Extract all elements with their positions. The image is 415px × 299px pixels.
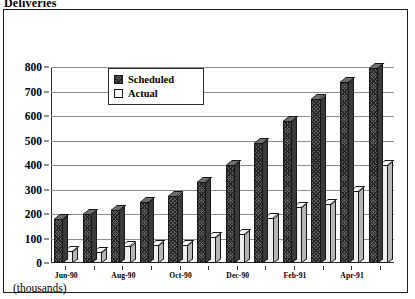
bar-front-face — [283, 121, 292, 263]
bar-front-face — [168, 196, 177, 263]
bar-scheduled-jul-90 — [83, 214, 92, 263]
chart-screenshot: Deliveries 0100200300400500600700800 Jun… — [0, 0, 415, 299]
bar-scheduled-mar-91 — [311, 99, 320, 263]
x-axis-tick — [237, 266, 238, 270]
legend-item-actual: Actual — [114, 86, 198, 100]
bar-side-face — [263, 139, 268, 263]
chart-frame: 0100200300400500600700800 Jun-90Aug-90Oc… — [3, 9, 408, 293]
bar-front-face — [226, 165, 235, 263]
x-axis-tick — [65, 266, 66, 270]
bar-front-face — [111, 210, 120, 263]
y-axis-tick — [44, 116, 49, 117]
bar-side-face — [274, 214, 279, 263]
legend: Scheduled Actual — [108, 68, 204, 105]
bar-front-face — [369, 68, 378, 263]
bar-side-face — [321, 95, 326, 263]
x-axis-tick — [94, 266, 95, 270]
y-axis-tick-label: 100 — [25, 233, 42, 245]
x-axis-tick-label: Apr-91 — [340, 271, 364, 280]
bar-side-face — [149, 198, 154, 263]
bar-side-face — [359, 187, 364, 263]
y-axis: 0100200300400500600700800 — [4, 60, 49, 270]
bar-side-face — [131, 242, 136, 263]
x-axis-tick — [151, 266, 152, 270]
x-axis-tick-label: Dec-90 — [226, 271, 249, 280]
x-axis-tick-label: Jun-90 — [55, 271, 78, 280]
y-axis-tick — [44, 263, 49, 264]
bar-front-face — [254, 143, 263, 263]
bar-scheduled-dec-90 — [226, 165, 235, 263]
bar-scheduled-sep-90 — [140, 202, 149, 263]
bar-front-face — [140, 202, 149, 263]
y-axis-tick-label: 0 — [36, 257, 42, 269]
bar-side-face — [235, 161, 240, 263]
legend-label-actual: Actual — [128, 88, 158, 99]
bar-side-face — [159, 241, 164, 263]
legend-swatch-actual-icon — [114, 89, 123, 98]
bar-side-face — [92, 210, 97, 263]
bar-side-face — [245, 230, 250, 263]
x-axis-tick — [208, 266, 209, 270]
y-axis-tick — [44, 189, 49, 190]
y-axis-tick — [44, 67, 49, 68]
y-axis-tick-label: 300 — [25, 184, 42, 196]
y-axis-tick — [44, 140, 49, 141]
bar-scheduled-may-91 — [369, 68, 378, 263]
bar-side-face — [63, 215, 68, 263]
bar-side-face — [378, 64, 383, 263]
y-axis-tick-label: 800 — [25, 61, 42, 73]
bar-scheduled-jun-90 — [54, 219, 63, 263]
bar-side-face — [178, 192, 183, 263]
page-title: Deliveries — [4, 0, 57, 8]
legend-label-scheduled: Scheduled — [128, 74, 174, 85]
plot-area — [51, 67, 394, 263]
x-axis-tick — [265, 266, 266, 270]
y-axis-tick — [44, 91, 49, 92]
bar-scheduled-jan-91 — [254, 143, 263, 263]
bar-side-face — [388, 161, 393, 263]
y-axis-tick — [44, 165, 49, 166]
y-axis-tick-label: 200 — [25, 208, 42, 220]
bar-side-face — [349, 78, 354, 263]
bar-scheduled-aug-90 — [111, 210, 120, 263]
legend-item-scheduled: Scheduled — [114, 72, 198, 86]
bar-scheduled-nov-90 — [197, 182, 206, 263]
x-axis: Jun-90Aug-90Oct-90Dec-90Feb-91Apr-91 — [51, 266, 394, 282]
y-axis-tick-label: 600 — [25, 110, 42, 122]
bar-front-face — [54, 219, 63, 263]
bar-side-face — [188, 241, 193, 263]
bar-scheduled-feb-91 — [283, 121, 292, 263]
units-label: (thousands) — [13, 282, 67, 294]
x-axis-tick-label: Aug-90 — [111, 271, 135, 280]
bar-side-face — [292, 117, 297, 263]
y-axis-tick-label: 500 — [25, 135, 42, 147]
bar-side-face — [216, 233, 221, 263]
y-axis-tick-label: 400 — [25, 159, 42, 171]
y-axis-tick-label: 700 — [25, 86, 42, 98]
legend-swatch-scheduled-icon — [114, 75, 123, 84]
bar-side-face — [206, 178, 211, 263]
bar-side-face — [120, 206, 125, 263]
y-axis-tick — [44, 214, 49, 215]
x-axis-tick — [380, 266, 381, 270]
x-axis-tick — [180, 266, 181, 270]
bar-front-face — [83, 214, 92, 263]
x-axis-tick — [294, 266, 295, 270]
gridline — [51, 67, 394, 68]
bar-front-face — [311, 99, 320, 263]
y-axis-tick — [44, 238, 49, 239]
bar-scheduled-apr-91 — [340, 82, 349, 263]
bar-front-face — [197, 182, 206, 263]
x-axis-tick-label: Feb-91 — [283, 271, 306, 280]
x-axis-tick — [323, 266, 324, 270]
bar-scheduled-oct-90 — [168, 196, 177, 263]
x-axis-tick-label: Oct-90 — [169, 271, 192, 280]
bar-side-face — [331, 200, 336, 263]
bar-side-face — [302, 203, 307, 263]
x-axis-tick — [351, 266, 352, 270]
bar-front-face — [340, 82, 349, 263]
x-axis-tick — [122, 266, 123, 270]
